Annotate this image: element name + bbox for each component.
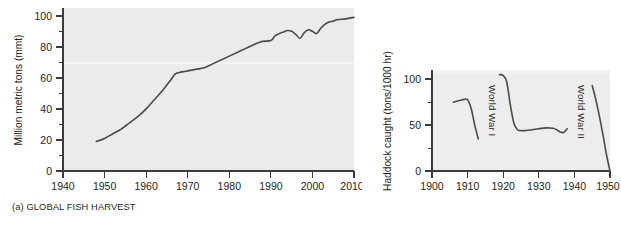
x-tick-label-b-1910: 1910 bbox=[456, 180, 480, 192]
y-tick-label-a-60: 60 bbox=[40, 72, 52, 84]
y-axis-title-b: Haddock caught (tons/1000 hr) bbox=[382, 51, 393, 191]
x-tick-label-a-1940: 1940 bbox=[51, 180, 75, 192]
y-tick-label-b-50: 50 bbox=[409, 119, 421, 131]
chart-panel-haddock-catch: 0 50 100 Haddock caught (tons/1000 hr) 1… bbox=[362, 0, 621, 234]
y-tick-label-a-0: 0 bbox=[46, 165, 52, 177]
x-tick-label-b-1930: 1930 bbox=[527, 180, 551, 192]
x-tick-label-b-1900: 1900 bbox=[420, 180, 444, 192]
x-tick-label-a-1980: 1980 bbox=[218, 180, 242, 192]
y-tick-label-a-100: 100 bbox=[34, 10, 52, 22]
y-tick-label-a-40: 40 bbox=[40, 103, 52, 115]
x-tick-label-a-1990: 1990 bbox=[259, 180, 283, 192]
y-tick-label-a-20: 20 bbox=[40, 134, 52, 146]
caption-panel-a: (a) GLOBAL FISH HARVEST bbox=[12, 202, 136, 212]
y-axis-title-a: Million metric tons (mmt) bbox=[13, 35, 24, 146]
x-tick-label-b-1950: 1950 bbox=[596, 180, 620, 192]
x-tick-label-a-2010: 2010 bbox=[340, 180, 362, 192]
plot-area-highlight-b bbox=[432, 70, 610, 74]
y-axis-minor-ticks-a bbox=[59, 32, 63, 156]
x-axis-ticks-b bbox=[432, 171, 610, 178]
x-tick-label-a-1950: 1950 bbox=[93, 180, 117, 192]
annotation-world-war-2: World War II bbox=[576, 85, 587, 139]
x-tick-label-b-1940: 1940 bbox=[563, 180, 587, 192]
x-tick-label-a-2000: 2000 bbox=[301, 180, 325, 192]
global-fish-harvest-chart: 0 20 40 60 80 100 Million metric tons (m… bbox=[0, 0, 362, 200]
x-tick-label-a-1960: 1960 bbox=[134, 180, 158, 192]
annotation-world-war-1: World War I bbox=[487, 85, 498, 136]
figure-container: 0 20 40 60 80 100 Million metric tons (m… bbox=[0, 0, 621, 234]
y-tick-label-b-100: 100 bbox=[403, 73, 421, 85]
y-axis-major-ticks-b bbox=[425, 79, 432, 171]
x-axis-ticks-a bbox=[63, 171, 354, 178]
y-tick-label-b-0: 0 bbox=[415, 165, 421, 177]
x-tick-label-a-1970: 1970 bbox=[176, 180, 200, 192]
plot-area-highlight-a bbox=[63, 62, 354, 64]
chart-panel-global-fish-harvest: 0 20 40 60 80 100 Million metric tons (m… bbox=[0, 0, 362, 234]
x-tick-label-b-1920: 1920 bbox=[492, 180, 516, 192]
plot-area-background-a bbox=[63, 8, 354, 171]
haddock-catch-chart: 0 50 100 Haddock caught (tons/1000 hr) 1… bbox=[362, 0, 621, 200]
y-tick-label-a-80: 80 bbox=[40, 41, 52, 53]
